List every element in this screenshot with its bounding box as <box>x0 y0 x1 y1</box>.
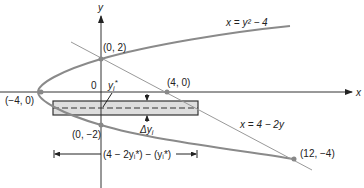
line-label: x = 4 − 2y <box>239 119 285 130</box>
label-point-0-2: (0, 2) <box>103 42 126 53</box>
delta-y-label: Δyi <box>139 124 154 136</box>
parabola-label: x = y² − 4 <box>225 17 268 28</box>
point-0-2 <box>99 57 104 62</box>
point-0-neg2 <box>99 123 104 128</box>
label-point-neg4-0: (−4, 0) <box>5 95 34 106</box>
point-12-neg4 <box>292 157 297 162</box>
label-point-4-0: (4, 0) <box>167 77 190 88</box>
x-axis-label: x <box>355 87 362 98</box>
region-diagram: y x 0 (0, 2) (0, −2) (−4, 0) (4, 0) (12,… <box>0 0 364 188</box>
origin-label: 0 <box>91 80 97 91</box>
point-4-0 <box>165 90 170 95</box>
sample-point-label: yi* <box>107 78 119 92</box>
y-axis-label: y <box>97 2 104 13</box>
label-point-12-neg4: (12, −4) <box>300 148 335 159</box>
point-neg4-0 <box>39 90 44 95</box>
width-annotation-label: (4 − 2yᵢ*) − (yᵢ*) <box>103 149 171 160</box>
label-point-0-neg2: (0, −2) <box>72 129 101 140</box>
